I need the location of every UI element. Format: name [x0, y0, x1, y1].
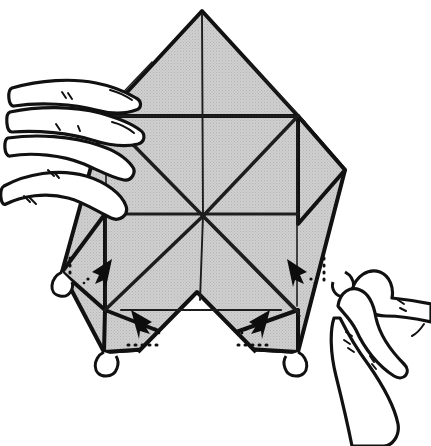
paper-curl-bottom-left-vertex — [95, 352, 118, 376]
origami-diagram-canvas — [0, 0, 431, 446]
paper-curl-bottom-right-vertex — [284, 352, 307, 376]
origami-figure-svg — [0, 0, 431, 446]
